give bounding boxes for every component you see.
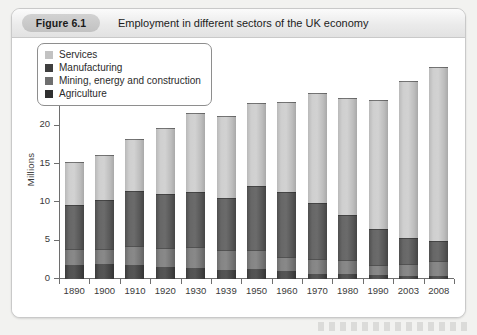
x-tick-label: 2008 — [424, 285, 454, 296]
y-tick-label: 5 — [45, 233, 50, 244]
x-tick — [332, 279, 333, 284]
x-tick-label: 1900 — [89, 285, 119, 296]
y-tick-label: 15 — [39, 157, 50, 168]
bar-1920[interactable] — [156, 128, 175, 279]
legend-label: Manufacturing — [59, 62, 122, 73]
x-tick-label: 1980 — [332, 285, 362, 296]
bar-segment-agriculture — [247, 269, 266, 279]
legend-item-manufacturing[interactable]: Manufacturing — [45, 61, 201, 74]
x-tick-label: 1939 — [211, 285, 241, 296]
bar-segment-agriculture — [217, 270, 236, 279]
legend-swatch-agriculture-icon — [45, 90, 53, 98]
x-tick-label: 1910 — [120, 285, 150, 296]
bar-2008[interactable] — [429, 67, 448, 279]
bar-segment-agriculture — [308, 274, 327, 279]
x-tick — [181, 279, 182, 284]
y-tick: 5 — [54, 240, 59, 241]
y-tick-label: 0 — [45, 272, 50, 283]
x-tick — [424, 279, 425, 284]
x-tick-label: 1920 — [150, 285, 180, 296]
x-tick — [211, 279, 212, 284]
legend-label: Agriculture — [59, 88, 107, 99]
legend-swatch-mining-icon — [45, 77, 53, 85]
figure-title-bar: Figure 6.1 Employment in different secto… — [12, 9, 465, 38]
x-tick-label: 1890 — [59, 285, 89, 296]
chart-plot-area: Millions 051015202530 189019001910192019… — [12, 38, 466, 318]
y-axis-title: Millions — [25, 140, 36, 200]
figure-card: Figure 6.1 Employment in different secto… — [11, 8, 466, 318]
bar-segment-agriculture — [338, 274, 357, 279]
x-tick — [59, 279, 60, 284]
legend-item-mining[interactable]: Mining, energy and construction — [45, 74, 201, 87]
y-tick: 20 — [54, 125, 59, 126]
chart-legend: ServicesManufacturingMining, energy and … — [37, 43, 212, 106]
legend-swatch-services-icon — [45, 51, 53, 59]
figure-caption: Employment in different sectors of the U… — [118, 17, 368, 29]
bar-segment-agriculture — [125, 265, 144, 279]
bar-segment-agriculture — [65, 265, 84, 279]
bar-1970[interactable] — [308, 93, 327, 279]
x-tick-label: 1970 — [302, 285, 332, 296]
legend-label: Services — [59, 49, 97, 60]
y-tick: 15 — [54, 163, 59, 164]
legend-swatch-manufacturing-icon — [45, 64, 53, 72]
legend-label: Mining, energy and construction — [59, 75, 201, 86]
bar-2003[interactable] — [399, 81, 418, 279]
x-tick-label: 1990 — [363, 285, 393, 296]
bar-segment-agriculture — [186, 268, 205, 279]
bar-1910[interactable] — [125, 139, 144, 279]
bar-segment-agriculture — [399, 276, 418, 279]
scan-bleed-artifact — [318, 322, 468, 331]
x-tick — [393, 279, 394, 284]
bar-segment-agriculture — [369, 275, 388, 279]
bar-1939[interactable] — [217, 116, 236, 279]
y-tick-label: 20 — [39, 118, 50, 129]
bar-1890[interactable] — [65, 162, 84, 279]
bar-1900[interactable] — [95, 155, 114, 279]
y-tick-label: 10 — [39, 195, 50, 206]
x-tick-label: 1950 — [241, 285, 271, 296]
legend-item-services[interactable]: Services — [45, 48, 201, 61]
x-tick — [302, 279, 303, 284]
x-tick — [454, 279, 455, 284]
x-tick-label: 1930 — [181, 285, 211, 296]
bar-segment-agriculture — [156, 267, 175, 279]
bar-segment-agriculture — [95, 264, 114, 279]
bar-1930[interactable] — [186, 113, 205, 279]
bar-1980[interactable] — [338, 98, 357, 279]
bar-1960[interactable] — [277, 102, 296, 279]
x-tick — [363, 279, 364, 284]
y-tick: 10 — [54, 201, 59, 202]
figure-number-badge: Figure 6.1 — [22, 14, 100, 32]
x-tick-label: 2003 — [393, 285, 423, 296]
bar-segment-agriculture — [429, 276, 448, 279]
bar-segment-agriculture — [277, 271, 296, 279]
x-tick — [272, 279, 273, 284]
x-tick — [241, 279, 242, 284]
legend-item-agriculture[interactable]: Agriculture — [45, 87, 201, 100]
x-tick-label: 1960 — [272, 285, 302, 296]
x-tick — [120, 279, 121, 284]
x-tick — [89, 279, 90, 284]
x-tick — [150, 279, 151, 284]
bar-1990[interactable] — [369, 100, 388, 279]
bar-1950[interactable] — [247, 103, 266, 279]
